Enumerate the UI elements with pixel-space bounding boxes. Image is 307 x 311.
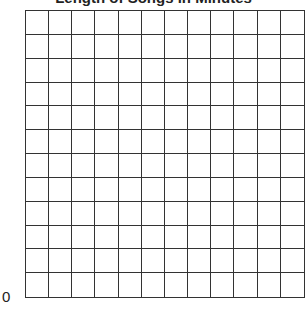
grid-cell [211,106,234,130]
grid-cell [72,178,95,202]
grid-cell [72,83,95,107]
grid-cell [281,59,304,83]
grid-cell [119,202,142,226]
grid-cell [234,273,257,297]
grid-cell [26,226,49,250]
grid-cell [211,273,234,297]
grid-cell [26,59,49,83]
grid-cell [234,130,257,154]
grid-cell [165,59,188,83]
grid-cell [188,11,211,35]
grid-cell [95,59,118,83]
grid-cell [281,106,304,130]
grid-cell [49,11,72,35]
grid-cell [72,11,95,35]
grid-cell [26,130,49,154]
grid-cell [142,130,165,154]
grid-cell [142,202,165,226]
y-axis-origin-label: 0 [2,288,10,306]
grid-cell [188,249,211,273]
grid-cell [211,249,234,273]
grid-cell [234,178,257,202]
grid-cell [95,35,118,59]
grid-cell [234,83,257,107]
grid-cell [165,35,188,59]
grid-cell [119,130,142,154]
grid-cell [211,11,234,35]
grid-cell [119,226,142,250]
grid-cell [258,35,281,59]
grid-cell [281,130,304,154]
grid-cell [188,178,211,202]
grid-cell [72,35,95,59]
grid-cell [72,202,95,226]
grid-cell [188,202,211,226]
grid-cell [26,106,49,130]
grid-cell [119,154,142,178]
grid-cell [165,154,188,178]
grid-cell [119,273,142,297]
chart-title: Length of Songs in Minutes [0,0,307,7]
grid-cell [26,249,49,273]
grid-cell [95,249,118,273]
grid-cell [258,273,281,297]
grid-cell [26,154,49,178]
grid-cell [165,11,188,35]
grid-cell [49,59,72,83]
grid-cell [258,226,281,250]
grid-cell [95,178,118,202]
grid-cell [211,178,234,202]
grid-cell [281,154,304,178]
grid-cell [234,106,257,130]
grid-cell [211,59,234,83]
grid-cell [72,154,95,178]
grid-cell [142,106,165,130]
grid-cell [165,226,188,250]
grid-cell [165,83,188,107]
grid-cell [72,249,95,273]
grid-cell [188,59,211,83]
grid-cell [95,202,118,226]
grid-cell [95,130,118,154]
grid-cell [142,154,165,178]
grid-cell [72,106,95,130]
grid-cell [211,83,234,107]
grid-cell [188,154,211,178]
grid-cell [258,106,281,130]
grid-cell [142,178,165,202]
grid-cell [165,249,188,273]
grid-cell [165,273,188,297]
grid-cell [188,273,211,297]
grid-cell [49,178,72,202]
grid-cell [142,11,165,35]
grid-cell [142,35,165,59]
grid-cell [95,154,118,178]
grid-cell [26,178,49,202]
grid-cell [72,273,95,297]
grid-cell [258,11,281,35]
grid-cell [234,35,257,59]
grid-cell [188,106,211,130]
grid-cell [281,11,304,35]
grid-cell [72,226,95,250]
grid-cell [281,273,304,297]
grid-cell [119,11,142,35]
grid-cell [49,202,72,226]
grid-cell [281,202,304,226]
grid-cell [26,202,49,226]
grid-cell [188,226,211,250]
grid-cell [258,83,281,107]
grid-cell [234,202,257,226]
grid-cell [142,226,165,250]
grid-cell [258,178,281,202]
grid-cell [119,35,142,59]
grid-cell [119,106,142,130]
grid-cell [49,273,72,297]
grid-cell [258,154,281,178]
grid-cell [119,59,142,83]
grid-cell [258,202,281,226]
grid-cell [95,226,118,250]
grid-cell [281,249,304,273]
grid-cell [142,249,165,273]
grid-cell [49,106,72,130]
